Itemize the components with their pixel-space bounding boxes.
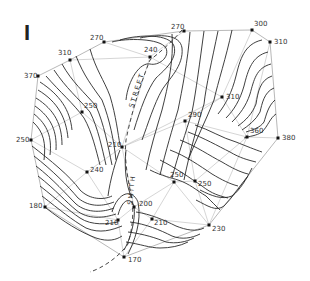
elevation-point: 250 (16, 136, 33, 144)
elevation-point: 200 (133, 200, 153, 209)
street-label-lower: SMITH (126, 174, 137, 205)
elevation-label: 230 (212, 225, 225, 233)
elevation-point: 250 (81, 102, 98, 114)
elevation-point: 270 (171, 23, 186, 33)
elevation-label: 210 (105, 219, 118, 227)
elevation-label: 240 (90, 166, 103, 174)
elevation-point: 380 (277, 134, 296, 142)
point-marker (149, 56, 152, 59)
elevation-label: 250 (16, 136, 29, 144)
elevation-label: 290 (188, 111, 201, 119)
elevation-point: 210 (105, 219, 120, 228)
point-marker (251, 29, 254, 32)
elevation-label: 250 (170, 171, 183, 179)
elevation-label: 300 (254, 20, 267, 28)
contour-map: STREET SMITH 370310270240270300310250310… (0, 0, 310, 281)
elevation-label: 380 (282, 134, 295, 142)
point-marker (69, 59, 72, 62)
elevation-point: 210 (108, 141, 124, 149)
elevation-label: 310 (274, 38, 287, 46)
point-marker (86, 171, 89, 174)
elevation-label: 360 (250, 127, 263, 135)
elevation-label: 310 (226, 93, 239, 101)
elevation-label: 270 (171, 23, 184, 31)
elevation-label: 200 (139, 200, 152, 208)
elevation-point: 370 (24, 72, 40, 80)
elevation-point: 240 (86, 166, 104, 174)
elevation-label: 210 (108, 141, 121, 149)
point-marker (194, 180, 197, 183)
elevation-point: 300 (251, 20, 268, 32)
elevation-label: 240 (144, 46, 157, 54)
point-marker (269, 41, 272, 44)
point-marker (277, 137, 280, 140)
elevation-label: 170 (128, 256, 141, 264)
elevation-label: 370 (24, 72, 37, 80)
elevation-point: 210 (151, 218, 168, 228)
point-marker (81, 111, 84, 114)
elevation-label: 270 (90, 34, 103, 42)
point-marker (44, 206, 47, 209)
elevation-points: 3703102702402703003102503102903603802502… (16, 20, 295, 264)
elevation-point: 310 (269, 38, 288, 46)
elevation-label: 310 (58, 49, 71, 57)
point-marker (133, 206, 136, 209)
elevation-point: 240 (144, 46, 157, 59)
elevation-label: 250 (84, 102, 97, 110)
point-marker (173, 181, 176, 184)
point-marker (30, 139, 33, 142)
point-marker (184, 120, 187, 123)
elevation-point: 310 (58, 49, 72, 62)
point-marker (221, 96, 224, 99)
elevation-label: 210 (154, 219, 167, 227)
elevation-point: 170 (123, 256, 142, 265)
elevation-point: 270 (90, 34, 106, 44)
point-marker (246, 136, 249, 139)
elevation-label: 180 (29, 202, 42, 210)
elevation-point: 230 (208, 224, 226, 234)
point-marker (208, 224, 211, 227)
point-marker (123, 256, 126, 259)
elevation-label: 250 (198, 180, 211, 188)
